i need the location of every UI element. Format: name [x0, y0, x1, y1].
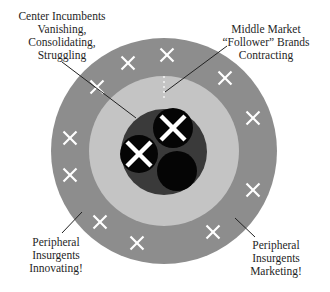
- label-line: “Follower” Brands: [204, 36, 328, 49]
- label-line: Center Incumbents: [2, 10, 122, 23]
- label-line: Innovating!: [6, 262, 106, 275]
- label-peripheral-innovating: Peripheral Insurgents Innovating!: [6, 236, 106, 275]
- label-center-incumbents: Center Incumbents Vanishing, Consolidati…: [2, 10, 122, 62]
- label-line: Peripheral: [6, 236, 106, 249]
- label-peripheral-marketing: Peripheral Insurgents Marketing!: [226, 239, 326, 278]
- label-middle-market: Middle Market “Follower” Brands Contract…: [204, 23, 328, 62]
- label-line: Marketing!: [226, 265, 326, 278]
- label-line: Vanishing,: [2, 23, 122, 36]
- label-line: Peripheral: [226, 239, 326, 252]
- label-line: Contracting: [204, 49, 328, 62]
- label-line: Insurgents: [226, 252, 326, 265]
- incumbent-circle: [157, 151, 197, 191]
- label-line: Consolidating,: [2, 36, 122, 49]
- label-line: Middle Market: [204, 23, 328, 36]
- label-line: Struggling: [2, 49, 122, 62]
- label-line: Insurgents: [6, 249, 106, 262]
